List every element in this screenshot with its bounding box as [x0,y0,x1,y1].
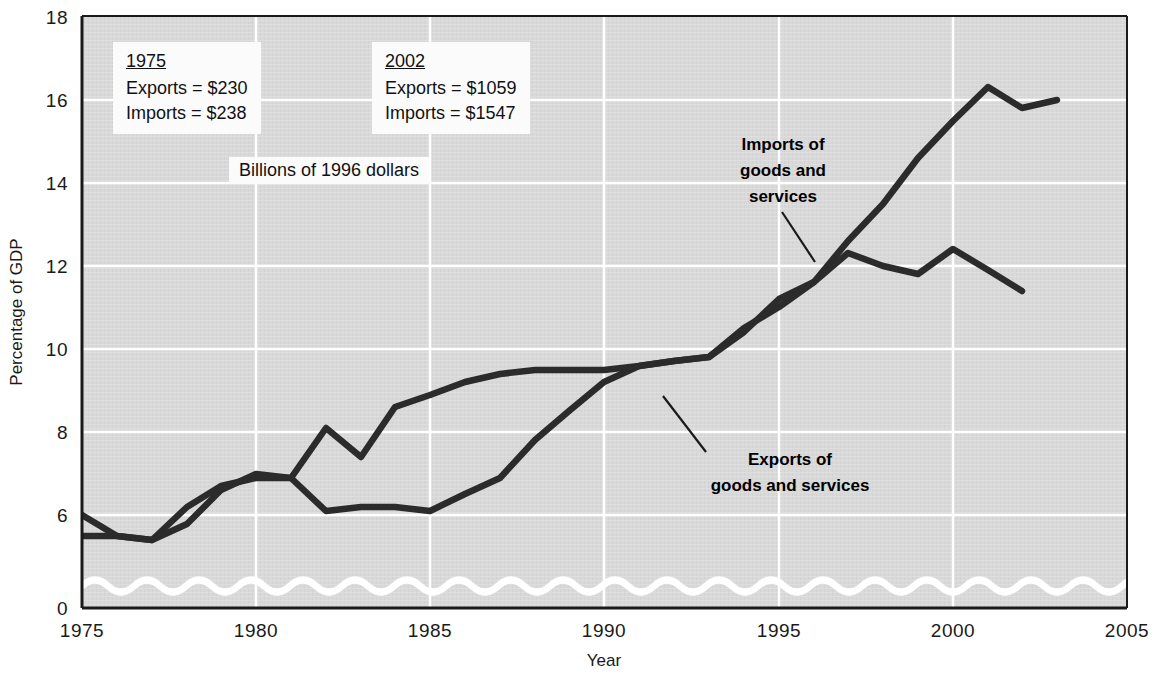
x-tick-1980: 1980 [234,620,278,641]
y-tick-16: 16 [46,90,68,111]
1975-box-row-imports: Imports = $238 [126,101,248,126]
2002-box-head: 2002 [385,49,517,74]
x-tick-2005: 2005 [1105,620,1149,641]
x-tick-1975: 1975 [60,620,104,641]
x-axis-title: Year [587,651,622,670]
y-tick-0: 0 [57,598,68,619]
exports-callout-line2: goods and services [711,476,870,495]
y-tick-10: 10 [46,339,68,360]
2002-box-row-exports: Exports = $1059 [385,76,517,101]
1975-box-head: 1975 [126,49,248,74]
x-tick-1995: 1995 [757,620,801,641]
y-tick-14: 14 [46,173,68,194]
imports-callout-line1: Imports of [741,135,824,154]
1975-box-row-exports: Exports = $230 [126,76,248,101]
x-tick-2000: 2000 [931,620,975,641]
x-tick-1985: 1985 [408,620,452,641]
imports-callout-line2: goods and [740,161,826,180]
imports-callout-line3: services [749,187,817,206]
2002-box-row-imports: Imports = $1547 [385,101,517,126]
2002-data-box: 2002 Exports = $1059 Imports = $1547 [372,42,530,134]
x-tick-1990: 1990 [582,620,626,641]
y-tick-8: 8 [57,422,68,443]
y-tick-12: 12 [46,256,68,277]
chart-page: 18 16 14 12 10 8 6 0 1975 1980 1985 1990… [0,0,1159,674]
1975-data-box: 1975 Exports = $230 Imports = $238 [113,42,261,134]
units-note: Billions of 1996 dollars [229,157,429,184]
exports-callout-line1: Exports of [748,450,832,469]
y-tick-6: 6 [57,505,68,526]
y-tick-18: 18 [46,7,68,28]
y-axis-title: Percentage of GDP [7,238,26,385]
